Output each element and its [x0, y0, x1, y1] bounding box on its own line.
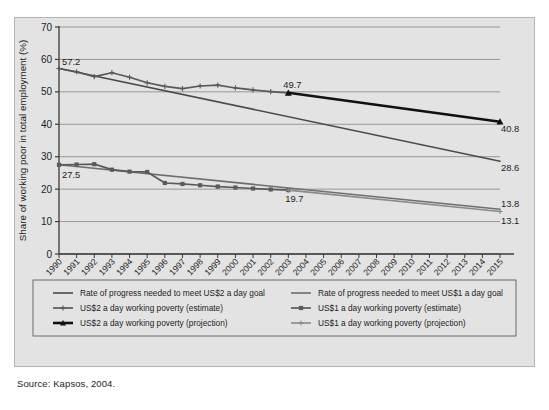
x-tick-label: 2008 [361, 256, 382, 277]
series-est_us2 [56, 66, 291, 96]
gridlines [59, 27, 500, 254]
y-axis-ticks: 010203040506070 [41, 22, 59, 260]
marker-square [269, 187, 273, 191]
data-label: 57.2 [62, 56, 80, 67]
legend-item-est_us1: US$1 a day working poverty (estimate) [291, 303, 461, 313]
source-note: Source: Kapsos, 2004. [17, 378, 115, 389]
marker-square [163, 181, 167, 185]
series-proj_us2 [285, 89, 504, 124]
x-tick-label: 2004 [291, 256, 312, 277]
y-axis-title-text: Share of working poor in total employmen… [17, 40, 28, 241]
marker-square [92, 162, 96, 166]
legend-label: US$2 a day working poverty (estimate) [80, 303, 223, 313]
legend-label: US$1 a day working poverty (projection) [318, 318, 466, 328]
data-label: 28.6 [501, 162, 519, 173]
data-label: 13.8 [501, 198, 519, 209]
x-tick-label: 2013 [449, 256, 470, 277]
x-tick-label: 2011 [414, 256, 434, 276]
series-group [56, 66, 503, 214]
x-tick-label: 2006 [326, 256, 347, 277]
y-tick-label: 10 [41, 216, 53, 227]
series-line [59, 69, 288, 93]
line-chart: 010203040506070 57.227.549.719.740.828.6… [15, 18, 534, 366]
x-tick-label: 2010 [396, 256, 417, 277]
x-tick-label: 1996 [149, 256, 170, 277]
figure-container: 010203040506070 57.227.549.719.740.828.6… [0, 0, 549, 410]
chart-panel: 010203040506070 57.227.549.719.740.828.6… [14, 17, 535, 367]
x-axis-tick-labels: 1990199119921993199419951996199719981999… [44, 256, 506, 277]
x-tick-label: 1993 [97, 256, 118, 277]
x-tick-label: 1994 [114, 256, 135, 277]
marker-square [198, 183, 202, 187]
marker-square [216, 184, 220, 188]
x-tick-label: 1999 [202, 256, 223, 277]
x-tick-label: 2000 [220, 256, 241, 277]
data-label: 19.7 [285, 193, 303, 204]
marker-square [233, 185, 237, 189]
x-tick-label: 2009 [379, 256, 400, 277]
y-tick-label: 40 [41, 119, 53, 130]
y-tick-label: 60 [41, 54, 53, 65]
legend-item-goal_us2: Rate of progress needed to meet US$2 a d… [53, 288, 265, 298]
data-label: 13.1 [501, 215, 519, 226]
series-line [288, 190, 500, 211]
legend-label: Rate of progress needed to meet US$2 a d… [80, 288, 265, 298]
x-tick-label: 2012 [432, 256, 453, 277]
x-tick-label: 2003 [273, 256, 294, 277]
legend-item-est_us2: US$2 a day working poverty (estimate) [53, 303, 223, 313]
marker-square [251, 186, 255, 190]
data-label: 27.5 [62, 169, 80, 180]
marker-square [180, 182, 184, 186]
x-tick-label: 2014 [467, 256, 488, 277]
y-tick-label: 30 [41, 151, 53, 162]
data-label: 49.7 [283, 79, 301, 90]
legend-item-proj_us2: US$2 a day working poverty (projection) [53, 318, 228, 328]
legend-label: US$2 a day working poverty (projection) [80, 318, 228, 328]
legend-label: Rate of progress needed to meet US$1 a d… [318, 288, 503, 298]
marker-square [299, 306, 303, 310]
x-tick-label: 1997 [167, 256, 188, 277]
x-tick-label: 1991 [61, 256, 82, 277]
legend-label: US$1 a day working poverty (estimate) [318, 303, 461, 313]
y-tick-label: 20 [41, 184, 53, 195]
series-line [288, 93, 500, 122]
marker-square [75, 162, 79, 166]
marker-square [127, 170, 131, 174]
series-goal_us2 [59, 69, 500, 162]
x-tick-label: 2007 [343, 256, 364, 277]
data-labels: 57.227.549.719.740.828.613.813.1 [62, 56, 519, 226]
legend-item-goal_us1: Rate of progress needed to meet US$1 a d… [291, 288, 503, 298]
axes [59, 26, 514, 254]
marker-square [145, 170, 149, 174]
legend-item-proj_us1: US$1 a day working poverty (projection) [291, 318, 466, 328]
marker-square [57, 163, 61, 167]
y-tick-label: 50 [41, 86, 53, 97]
chart-legend: Rate of progress needed to meet US$2 a d… [33, 280, 516, 336]
x-tick-label: 2015 [485, 256, 506, 277]
x-tick-label: 1995 [132, 256, 153, 277]
series-line [59, 69, 500, 162]
x-tick-label: 2001 [238, 256, 259, 277]
x-tick-label: 2005 [308, 256, 329, 277]
x-tick-label: 2002 [255, 256, 276, 277]
y-tick-label: 0 [46, 249, 52, 260]
marker-square [110, 168, 114, 172]
data-label: 40.8 [501, 123, 519, 134]
y-tick-label: 70 [41, 22, 53, 33]
y-axis-title: Share of working poor in total employmen… [17, 40, 28, 241]
x-tick-label: 1998 [185, 256, 206, 277]
x-tick-label: 1992 [79, 256, 100, 277]
